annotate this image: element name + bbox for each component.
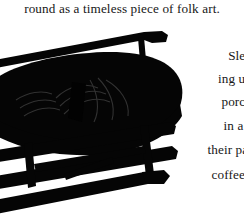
body-text-line-2-text: ing up [218,71,244,87]
body-text-line-4: in a s [0,118,244,134]
body-text-column: Sled ing up porch in a s their pai coffe… [0,46,244,216]
top-text-line: round as a timeless piece of folk art. [0,0,244,18]
body-text-line-6-text: coffee t [212,167,244,183]
body-text-line-5-text: their pai [208,142,244,158]
sled-rail-end-knob [144,31,168,43]
body-text-line-6: coffee t [0,167,244,183]
body-text-line-3: porch [0,94,244,110]
body-text-line-1: Sled [0,48,244,64]
book-page: round as a timeless piece of folk art. [0,0,244,216]
body-text-line-5: their pai [0,142,244,158]
body-text-line-4-text: in a s [224,118,244,134]
body-text-line-3-text: porch [221,94,244,110]
body-text-line-2: ing up [0,71,244,87]
body-text-line-1-text: Sled [228,48,244,64]
